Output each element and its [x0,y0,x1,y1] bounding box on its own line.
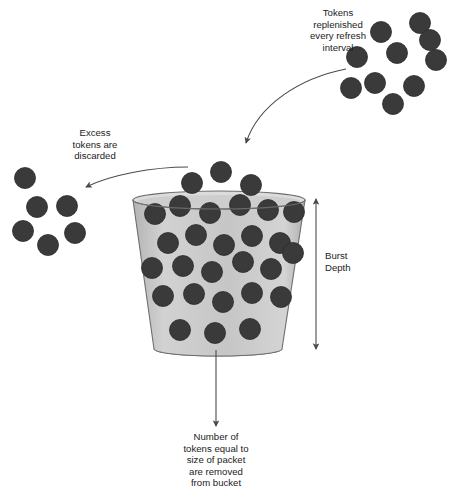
token-circle [57,196,78,217]
token-circle [371,22,392,43]
discard-arrow [86,167,188,187]
token-circle [200,203,221,224]
token-circle [233,252,254,273]
token-circle [365,73,386,94]
diagram-canvas: Tokensreplenishedevery refreshinterval E… [0,0,457,502]
token-circle [158,233,179,254]
token-circle [214,235,235,256]
token-circle [142,258,163,279]
token-bucket-diagram: Tokensreplenishedevery refreshinterval E… [0,0,457,502]
token-circle [383,94,404,115]
label-line: from bucket [191,477,241,488]
token-circle [387,43,408,64]
label-line: Depth [325,262,351,273]
token-circle [182,173,203,194]
token-circle [13,221,34,242]
token-circle [153,286,174,307]
label-line: are removed [189,466,243,477]
token-circle [426,50,447,71]
token-circle [27,197,48,218]
label-line: every refresh [310,30,366,41]
token-circle [15,168,36,189]
label-line: Excess [80,127,111,138]
label-line: Number of [194,431,239,442]
label-line: tokens are [73,139,118,150]
label-line: tokens equal to [183,443,248,454]
token-circle [420,30,441,51]
token-circle [170,320,191,341]
token-circle [341,78,362,99]
token-circle [38,235,59,256]
token-circle [258,200,279,221]
token-circle [230,195,251,216]
token-circle [173,256,194,277]
label-line: Burst [325,250,348,261]
token-circle [404,76,425,97]
token-circle [202,262,223,283]
burst-depth-label: BurstDepth [325,250,351,273]
label-line: Tokens [323,7,354,18]
token-circle [170,196,191,217]
discarded-token-cluster [13,168,86,256]
token-circle [184,284,205,305]
excess-tokens-label: Excesstokens arediscarded [73,127,118,161]
replenish-arrow [246,69,346,143]
label-line: replenished [313,19,363,30]
token-circle [65,223,86,244]
token-circle [242,226,263,247]
token-circle [240,319,261,340]
token-circle [283,243,304,264]
token-circle [261,259,282,280]
label-line: discarded [74,150,116,161]
tokens-replenished-label: Tokensreplenishedevery refreshinterval [310,7,366,53]
token-circle [241,175,262,196]
token-circle [211,162,232,183]
label-line: size of packet [187,454,246,465]
token-circle [242,283,263,304]
label-line: interval [323,42,354,53]
token-circle [186,225,207,246]
token-circle [205,323,226,344]
tokens-removed-label: Number oftokens equal tosize of packetar… [183,431,248,488]
token-circle [271,287,292,308]
token-circle [213,292,234,313]
overflow-token-cluster [182,162,262,196]
